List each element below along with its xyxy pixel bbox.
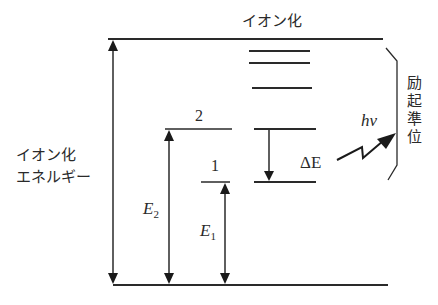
svg-text:起: 起 <box>407 92 422 110</box>
svg-text:位: 位 <box>407 128 422 146</box>
photon-label: hν <box>361 111 378 130</box>
ionization-energy-label-line1: イオン化 <box>16 146 76 164</box>
delta-e-label: ΔE <box>300 153 321 172</box>
excited-levels-label: 励 起 準 位 <box>407 74 422 146</box>
svg-text:準: 準 <box>407 110 422 128</box>
ionization-arrowhead-up <box>108 40 118 51</box>
e1-arrowhead-down <box>220 273 230 284</box>
ionization-label: イオン化 <box>242 12 302 30</box>
level-1-label: 1 <box>211 157 219 174</box>
ionization-arrowhead-down <box>108 273 118 284</box>
photon-arrowhead <box>377 133 396 149</box>
svg-text:励: 励 <box>407 74 422 92</box>
e2-arrowhead-up <box>164 130 174 141</box>
excited-levels-bracket <box>386 48 397 180</box>
e1-arrowhead-up <box>220 183 230 194</box>
energy-level-diagram: イオン化 2 1 E2 E1 ΔE hν 励 起 準 位 イオン化 エネルギー <box>0 0 438 305</box>
e1-label: E1 <box>199 221 216 242</box>
e2-label: E2 <box>142 199 159 220</box>
ionization-energy-label-line2: エネルギー <box>16 168 91 186</box>
photon-zigzag-arrow <box>337 141 383 160</box>
delta-e-arrowhead <box>264 171 274 181</box>
level-2-label: 2 <box>195 107 203 124</box>
e2-arrowhead-down <box>164 273 174 284</box>
